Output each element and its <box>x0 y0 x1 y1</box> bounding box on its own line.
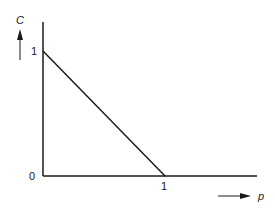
x-axis-label: p <box>257 190 264 202</box>
x-tick-label-1: 1 <box>161 180 167 192</box>
y-axis-label: C <box>16 14 24 26</box>
data-line <box>43 51 165 176</box>
y-direction-arrow-icon <box>17 29 23 40</box>
chart: C p 1 0 1 <box>0 0 275 211</box>
y-tick-label-1: 1 <box>31 45 37 57</box>
origin-label: 0 <box>29 170 35 182</box>
x-direction-arrow-icon <box>240 193 251 199</box>
